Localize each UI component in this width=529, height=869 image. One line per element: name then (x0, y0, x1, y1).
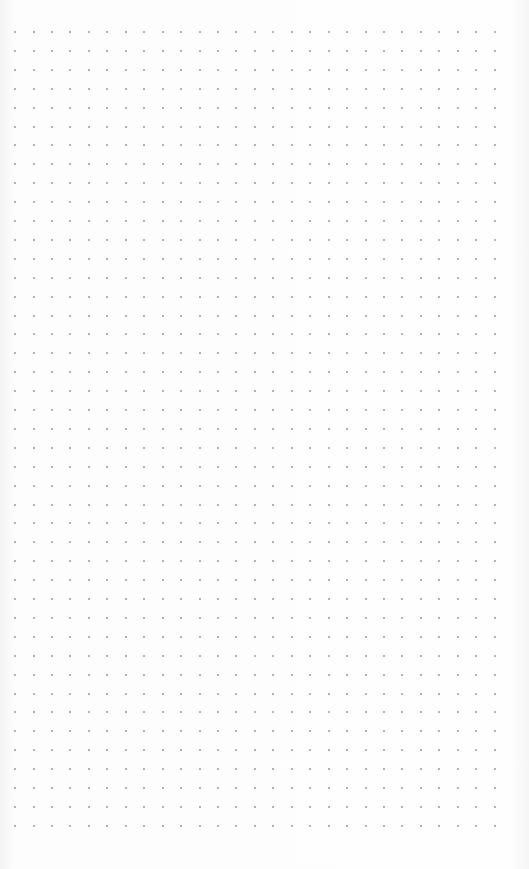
grid-dot (125, 560, 127, 562)
grid-dot (494, 163, 496, 165)
grid-dot (475, 239, 477, 241)
grid-dot (346, 541, 348, 543)
grid-dot (69, 69, 71, 71)
grid-dot (125, 182, 127, 184)
grid-dot (162, 485, 164, 487)
grid-dot (457, 258, 459, 260)
grid-dot (125, 126, 127, 128)
grid-dot (401, 579, 403, 581)
grid-dot (106, 466, 108, 468)
grid-dot (420, 768, 422, 770)
grid-dot (162, 296, 164, 298)
grid-dot (180, 126, 182, 128)
grid-dot (328, 126, 330, 128)
grid-dot (106, 522, 108, 524)
grid-dot (88, 730, 90, 732)
grid-dot (401, 485, 403, 487)
grid-dot (69, 730, 71, 732)
grid-dot (106, 579, 108, 581)
grid-dot (328, 409, 330, 411)
grid-dot (346, 579, 348, 581)
grid-dot (272, 504, 274, 506)
grid-dot (162, 504, 164, 506)
grid-dot (143, 768, 145, 770)
grid-dot (69, 31, 71, 33)
grid-dot (125, 541, 127, 543)
grid-dot (143, 371, 145, 373)
grid-dot (328, 88, 330, 90)
grid-dot (106, 144, 108, 146)
grid-dot (199, 579, 201, 581)
grid-dot (69, 258, 71, 260)
grid-dot (420, 50, 422, 52)
grid-dot (475, 636, 477, 638)
grid-dot (33, 579, 35, 581)
grid-dot (14, 806, 16, 808)
grid-dot (88, 655, 90, 657)
grid-dot (383, 711, 385, 713)
grid-dot (365, 711, 367, 713)
grid-dot (14, 636, 16, 638)
grid-dot (125, 825, 127, 827)
grid-dot (346, 182, 348, 184)
grid-dot (457, 163, 459, 165)
grid-dot (254, 220, 256, 222)
grid-dot (475, 825, 477, 827)
grid-dot (51, 201, 53, 203)
grid-dot (328, 107, 330, 109)
grid-dot (383, 825, 385, 827)
grid-dot (309, 352, 311, 354)
grid-dot (106, 315, 108, 317)
grid-dot (309, 636, 311, 638)
grid-dot (346, 711, 348, 713)
grid-dot (14, 315, 16, 317)
grid-dot (199, 787, 201, 789)
grid-dot (438, 504, 440, 506)
grid-dot (88, 579, 90, 581)
grid-dot (494, 636, 496, 638)
grid-dot (51, 504, 53, 506)
grid-dot (69, 88, 71, 90)
grid-dot (217, 693, 219, 695)
grid-dot (272, 371, 274, 373)
grid-dot (162, 655, 164, 657)
grid-dot (272, 409, 274, 411)
grid-dot (180, 825, 182, 827)
grid-dot (272, 277, 274, 279)
grid-dot (457, 428, 459, 430)
grid-dot (199, 560, 201, 562)
grid-dot (291, 579, 293, 581)
grid-dot (457, 749, 459, 751)
grid-dot (365, 107, 367, 109)
grid-dot (33, 258, 35, 260)
grid-dot (365, 126, 367, 128)
grid-dot (125, 466, 127, 468)
grid-dot (254, 315, 256, 317)
grid-dot (457, 390, 459, 392)
grid-dot (51, 144, 53, 146)
grid-dot (365, 447, 367, 449)
grid-dot (494, 768, 496, 770)
grid-dot (254, 447, 256, 449)
grid-dot (494, 598, 496, 600)
grid-dot (199, 617, 201, 619)
grid-dot (494, 182, 496, 184)
grid-dot (494, 296, 496, 298)
grid-dot (162, 730, 164, 732)
grid-dot (328, 239, 330, 241)
grid-dot (457, 693, 459, 695)
grid-dot (199, 730, 201, 732)
grid-dot (106, 88, 108, 90)
grid-dot (162, 541, 164, 543)
grid-dot (69, 447, 71, 449)
grid-dot (199, 655, 201, 657)
grid-dot (125, 428, 127, 430)
grid-dot (309, 617, 311, 619)
grid-dot (199, 504, 201, 506)
grid-dot (475, 447, 477, 449)
grid-dot (457, 787, 459, 789)
grid-dot (254, 428, 256, 430)
grid-dot (346, 466, 348, 468)
grid-dot (33, 220, 35, 222)
grid-dot (51, 466, 53, 468)
